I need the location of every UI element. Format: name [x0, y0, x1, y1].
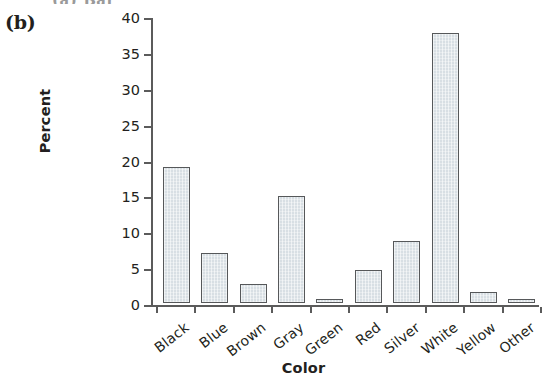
y-tick-35: [144, 54, 151, 56]
x-tick: [425, 307, 427, 313]
x-tick: [233, 307, 235, 313]
bar-red: [355, 270, 382, 303]
y-tick-label: 40: [122, 10, 140, 26]
bar-other: [508, 299, 535, 303]
bar-chart-plot-area: 0510152025303540: [151, 18, 539, 305]
bar-white: [432, 33, 459, 303]
y-axis-line: [151, 18, 153, 306]
y-tick-30: [144, 90, 151, 92]
x-axis-line: [151, 305, 539, 307]
x-tick: [502, 307, 504, 313]
y-tick-label: 35: [122, 46, 140, 62]
bar-yellow: [470, 292, 497, 303]
y-tick-label: 20: [122, 154, 140, 170]
x-tick: [194, 307, 196, 313]
y-tick-0: [144, 305, 151, 307]
x-tick: [463, 307, 465, 313]
bar-blue: [201, 253, 228, 303]
y-tick-25: [144, 126, 151, 128]
x-tick: [156, 307, 158, 313]
cut-off-caption-fragment: (a) Bar: [52, 0, 232, 4]
y-tick-label: 25: [122, 118, 140, 134]
bar-brown: [240, 284, 267, 303]
x-axis-title: Color: [0, 360, 547, 376]
x-tick: [386, 307, 388, 313]
y-axis-title: Percent: [37, 71, 53, 171]
y-tick-label: 5: [131, 261, 140, 277]
x-tick: [348, 307, 350, 313]
bar-black: [163, 167, 190, 303]
x-tick: [310, 307, 312, 313]
panel-label: (b): [5, 11, 35, 33]
y-tick-label: 30: [122, 82, 140, 98]
y-tick-5: [144, 269, 151, 271]
y-tick-40: [144, 18, 151, 20]
y-tick-label: 15: [122, 189, 140, 205]
x-tick: [540, 307, 542, 313]
y-tick-label: 0: [131, 297, 140, 313]
y-tick-label: 10: [122, 225, 140, 241]
bar-gray: [278, 196, 305, 303]
y-tick-20: [144, 162, 151, 164]
bar-silver: [393, 241, 420, 303]
y-tick-10: [144, 233, 151, 235]
y-tick-15: [144, 197, 151, 199]
x-tick: [271, 307, 273, 313]
bar-green: [316, 299, 343, 303]
